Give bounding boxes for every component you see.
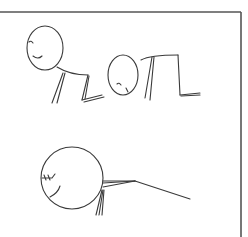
smile-stroke: [33, 56, 42, 58]
limb-line: [84, 97, 104, 102]
figure-lying: [41, 147, 190, 215]
smile-stroke: [50, 186, 60, 197]
eye-stroke: [42, 174, 55, 180]
figure-all-fours: [108, 55, 200, 100]
eye-stroke: [29, 41, 33, 43]
sketch-canvas: [0, 0, 248, 237]
limb-line: [57, 67, 88, 75]
panel-frame: [0, 12, 241, 237]
stick-figures: [27, 26, 200, 215]
figure-crouching: [27, 26, 104, 103]
head-circle: [108, 55, 138, 95]
limb-line: [178, 55, 180, 95]
limb-line: [141, 55, 178, 60]
eye-stroke: [117, 83, 121, 85]
smile-stroke: [126, 88, 128, 92]
limb-line: [135, 181, 190, 199]
head-circle: [27, 26, 63, 70]
